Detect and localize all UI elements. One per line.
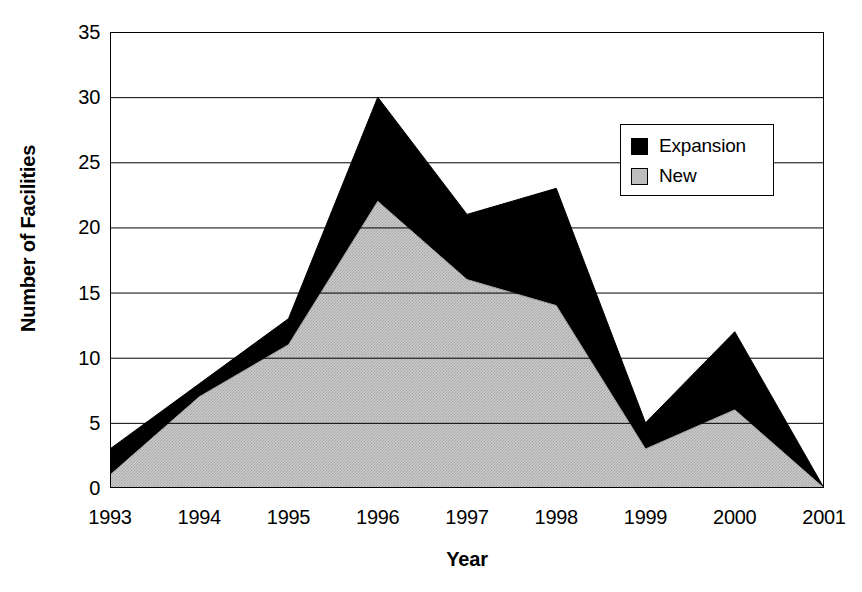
plot-area [110,32,824,488]
x-tick-label: 2000 [690,506,780,529]
x-axis-title: Year [110,548,824,571]
legend-item-expansion: Expansion [631,131,773,161]
chart-legend: Expansion New [620,124,774,196]
x-tick-label: 2001 [779,506,862,529]
x-tick-label: 1993 [65,506,155,529]
x-tick-label: 1994 [154,506,244,529]
x-tick-label: 1999 [601,506,691,529]
x-tick-label: 1995 [244,506,334,529]
legend-label-expansion: Expansion [659,135,746,157]
legend-swatch-new-icon [631,168,648,185]
legend-item-new: New [631,161,773,191]
x-tick-label: 1998 [511,506,601,529]
x-tick-label: 1996 [333,506,423,529]
chart-figure: Number of Facilities 05101520253035 1993… [0,0,862,592]
legend-swatch-expansion-icon [631,138,648,155]
legend-label-new: New [659,165,696,187]
stacked-area-svg [110,32,824,488]
x-tick-label: 1997 [422,506,512,529]
